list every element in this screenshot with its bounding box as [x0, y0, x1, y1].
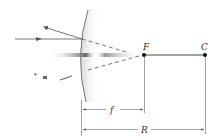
focal-length-label: f [109, 105, 115, 115]
radius-dimension: R [83, 125, 204, 135]
axis-shading [48, 53, 143, 57]
reflected-ray [44, 27, 82, 39]
center-label: C [201, 42, 208, 52]
focal-point-label: F [142, 42, 150, 52]
focal-length-dimension: f [83, 105, 143, 115]
incident-ray-arrow-icon [36, 37, 42, 41]
focal-point [142, 53, 146, 57]
virtual-ray-extension-lower [88, 55, 143, 70]
lower-reflected-ray [34, 73, 72, 80]
radius-label: R [140, 125, 148, 135]
center-of-curvature [203, 53, 207, 57]
mirror-diagram: F C f R [0, 0, 221, 138]
